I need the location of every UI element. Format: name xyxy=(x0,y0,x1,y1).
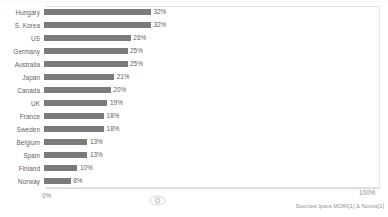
bar-value-label: 32% xyxy=(153,20,166,30)
bar xyxy=(44,100,107,106)
bar-track: 18% xyxy=(44,110,388,123)
bar-value-label: 13% xyxy=(90,150,103,160)
bar xyxy=(44,152,87,158)
bar xyxy=(44,139,87,145)
axis-tick-max: 100% xyxy=(359,189,376,196)
bar-value-label: 18% xyxy=(107,124,120,134)
bar-track: 8% xyxy=(44,175,388,188)
category-label: Norway xyxy=(0,177,44,186)
bar-value-label: 25% xyxy=(130,59,143,69)
bar-track: 25% xyxy=(44,58,388,71)
bar-track: 21% xyxy=(44,71,388,84)
bar xyxy=(44,87,111,93)
bar-track: 32% xyxy=(44,19,388,32)
bar xyxy=(44,22,151,28)
bar-track: 10% xyxy=(44,162,388,175)
bar xyxy=(44,61,128,67)
category-label: Hungary xyxy=(0,8,44,17)
bar-row: Belgium13% xyxy=(0,136,388,149)
bar xyxy=(44,126,104,132)
bar-track: 26% xyxy=(44,32,388,45)
bar-row: Australia25% xyxy=(0,58,388,71)
bar xyxy=(44,9,151,15)
bar-row: Japan21% xyxy=(0,71,388,84)
bar-value-label: 13% xyxy=(90,137,103,147)
category-label: Canada xyxy=(0,86,44,95)
bar-value-label: 10% xyxy=(80,163,93,173)
bar-track: 13% xyxy=(44,149,388,162)
bar-track: 19% xyxy=(44,97,388,110)
bar-value-label: 26% xyxy=(133,33,146,43)
bar xyxy=(44,48,128,54)
category-label: Finland xyxy=(0,164,44,173)
bar-rows: Hungary32%S. Korea32%US26%Germany25%Aust… xyxy=(0,6,388,188)
category-label: US xyxy=(0,34,44,43)
bar-track: 25% xyxy=(44,45,388,58)
bar-value-label: 20% xyxy=(113,85,126,95)
bar-track: 18% xyxy=(44,123,388,136)
bar xyxy=(44,74,114,80)
bar-track: 32% xyxy=(44,6,388,19)
bar-track: 13% xyxy=(44,136,388,149)
bar-row: US26% xyxy=(0,32,388,45)
bar-row: Spain13% xyxy=(0,149,388,162)
bar-row: UK19% xyxy=(0,97,388,110)
bar-value-label: 32% xyxy=(153,7,166,17)
bar-row: Sweden18% xyxy=(0,123,388,136)
category-label: Sweden xyxy=(0,125,44,134)
source-note: Sources Ipsos MORI[1] & Novus[1] xyxy=(296,203,384,209)
category-label: Japan xyxy=(0,73,44,82)
bar-value-label: 8% xyxy=(73,176,82,186)
axis-tick-min: 0% xyxy=(42,192,51,199)
bar-row: Hungary32% xyxy=(0,6,388,19)
eye-icon xyxy=(149,194,166,207)
top-scan-artifact xyxy=(0,1,388,3)
category-label: S. Korea xyxy=(0,21,44,30)
bar-row: S. Korea32% xyxy=(0,19,388,32)
bar-row: Canada20% xyxy=(0,84,388,97)
bar-row: France18% xyxy=(0,110,388,123)
bar xyxy=(44,165,77,171)
bar-row: Norway8% xyxy=(0,175,388,188)
category-label: Belgium xyxy=(0,138,44,147)
category-label: UK xyxy=(0,99,44,108)
category-axis-line xyxy=(46,188,380,189)
category-label: Germany xyxy=(0,47,44,56)
bar-row: Germany25% xyxy=(0,45,388,58)
bar-row: Finland10% xyxy=(0,162,388,175)
category-label: France xyxy=(0,112,44,121)
bar xyxy=(44,178,71,184)
bar-value-label: 19% xyxy=(110,98,123,108)
category-label: Australia xyxy=(0,60,44,69)
category-label: Spain xyxy=(0,151,44,160)
bar xyxy=(44,113,104,119)
bar-value-label: 18% xyxy=(107,111,120,121)
bar-value-label: 25% xyxy=(130,46,143,56)
bar-value-label: 21% xyxy=(117,72,130,82)
bar-track: 20% xyxy=(44,84,388,97)
bar xyxy=(44,35,131,41)
bar-chart: Hungary32%S. Korea32%US26%Germany25%Aust… xyxy=(0,0,388,217)
